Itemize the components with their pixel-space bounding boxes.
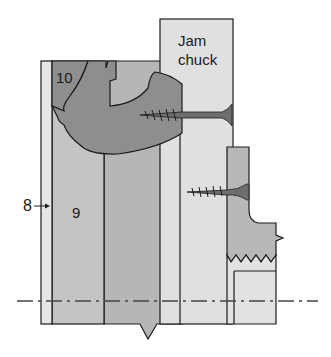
diagram-canvas <box>0 0 331 357</box>
label-8: 8 <box>23 197 32 215</box>
jam-chuck-label-line2: chuck <box>178 51 217 68</box>
label-9: 9 <box>72 204 80 221</box>
small-piece <box>227 147 283 262</box>
label-10: 10 <box>56 69 73 86</box>
strip-8 <box>41 61 52 324</box>
jam-chuck-label-line1: Jam <box>178 32 206 49</box>
